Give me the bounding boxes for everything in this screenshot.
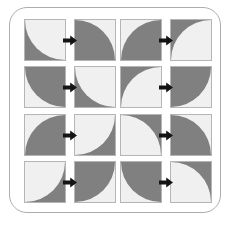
pair-2-before-tile [24, 66, 66, 108]
pair-8-before-tile [120, 161, 162, 203]
pair-5-before-tile [24, 114, 66, 156]
transformation-pair-7 [120, 114, 212, 156]
right-arrow-icon [63, 161, 77, 203]
quadrant-top-right [120, 19, 212, 108]
quadrant-grid [24, 19, 208, 203]
transformation-pair-8 [120, 161, 212, 203]
pair-1-after-tile [74, 19, 116, 61]
right-arrow-icon [159, 161, 173, 203]
transformation-pair-6 [24, 161, 116, 203]
pair-7-before-tile [120, 114, 162, 156]
right-arrow-icon [159, 114, 173, 156]
pair-7-after-tile [170, 114, 212, 156]
quadrant-top-left [24, 19, 116, 108]
right-arrow-icon [63, 66, 77, 108]
transformation-pair-5 [24, 114, 116, 156]
right-arrow-icon [63, 19, 77, 61]
pair-4-after-tile [170, 66, 212, 108]
pair-6-after-tile [74, 161, 116, 203]
right-arrow-icon [159, 19, 173, 61]
pair-4-before-tile [120, 66, 162, 108]
transformation-pair-3 [120, 19, 212, 61]
tile-transformation-figure [0, 0, 233, 225]
quadrant-bottom-left [24, 114, 116, 203]
right-arrow-icon [159, 66, 173, 108]
pair-3-before-tile [120, 19, 162, 61]
pair-2-after-tile [74, 66, 116, 108]
figure-panel [9, 7, 221, 213]
pair-1-before-tile [24, 19, 66, 61]
transformation-pair-4 [120, 66, 212, 108]
pair-8-after-tile [170, 161, 212, 203]
pair-6-before-tile [24, 161, 66, 203]
quadrant-bottom-right [120, 114, 212, 203]
pair-5-after-tile [74, 114, 116, 156]
transformation-pair-1 [24, 19, 116, 61]
transformation-pair-2 [24, 66, 116, 108]
right-arrow-icon [63, 114, 77, 156]
pair-3-after-tile [170, 19, 212, 61]
